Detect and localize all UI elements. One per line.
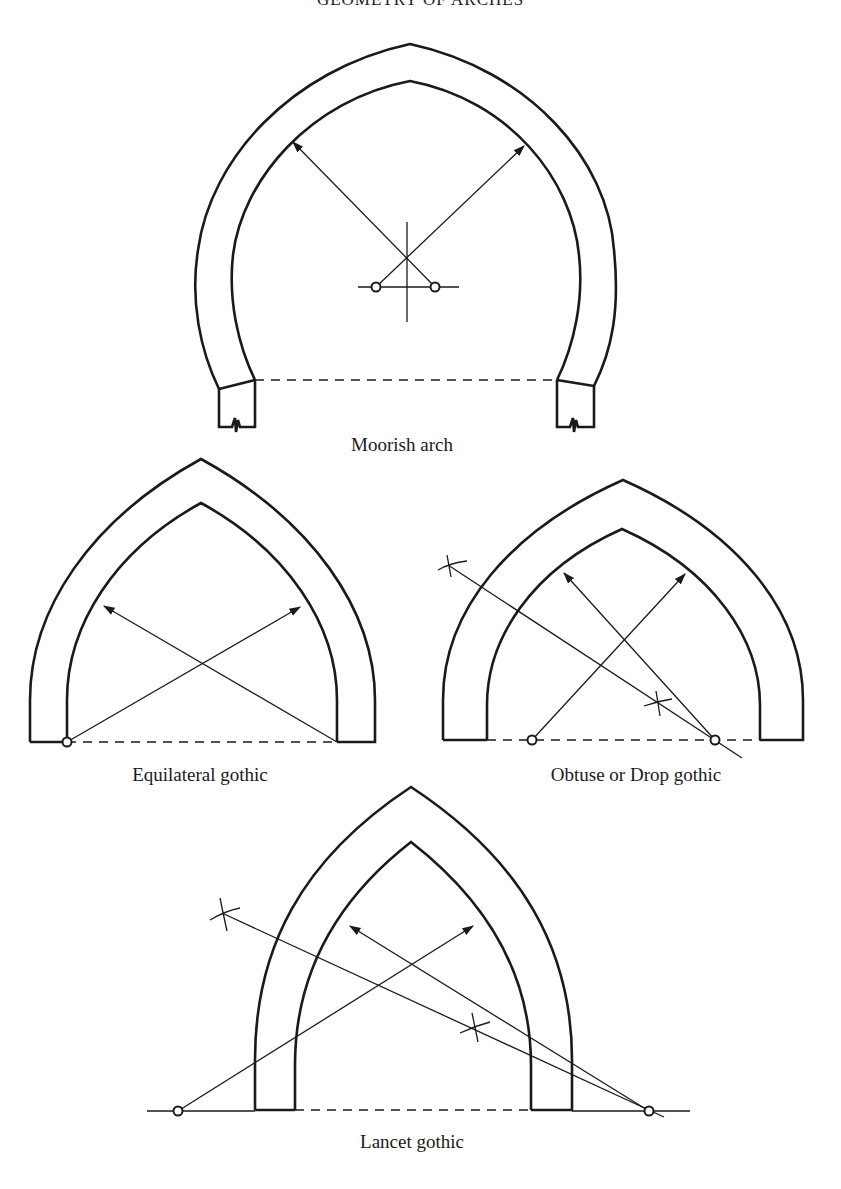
moorish-radius-right [376, 146, 524, 287]
moorish-radius-left [293, 142, 435, 287]
moorish-arch-figure [195, 44, 616, 432]
lancet-radius-left [350, 926, 649, 1111]
caption-lancet-gothic: Lancet gothic [360, 1131, 464, 1153]
equilateral-inner-curve [67, 503, 337, 742]
obtuse-inner-curve [487, 529, 760, 740]
obtuse-center-right [711, 736, 720, 745]
lancet-outer-curve [255, 787, 572, 1110]
arches-diagram [0, 0, 841, 1189]
equilateral-radius-left [104, 606, 337, 742]
moorish-inner-curve [232, 81, 581, 380]
moorish-center-right [431, 283, 440, 292]
caption-obtuse-gothic: Obtuse or Drop gothic [551, 764, 721, 786]
moorish-right-springer [557, 380, 594, 386]
equilateral-radius-right [67, 607, 300, 742]
equilateral-outer-curve [30, 459, 375, 742]
obtuse-center-left [528, 736, 537, 745]
lancet-center-right [645, 1107, 654, 1116]
diagram-page: GEOMETRY OF ARCHES [0, 0, 841, 1189]
lancet-inner-curve [295, 842, 531, 1110]
moorish-outer-curve [195, 44, 616, 389]
lancet-gothic-figure [147, 787, 690, 1117]
lancet-radius-right [178, 926, 473, 1111]
lancet-center-left [174, 1107, 183, 1116]
lancet-arc-mark-lower [460, 1013, 490, 1042]
equilateral-gothic-figure [30, 459, 375, 747]
equilateral-center [63, 738, 72, 747]
obtuse-outer-curve [443, 480, 803, 740]
moorish-right-pier [557, 380, 594, 432]
obtuse-arc-mark-lower [644, 691, 672, 716]
caption-moorish-arch: Moorish arch [351, 434, 453, 456]
moorish-center-left [372, 283, 381, 292]
obtuse-arc-mark-upper [438, 555, 467, 577]
obtuse-radius-right [532, 574, 685, 740]
moorish-left-springer [219, 380, 255, 389]
obtuse-gothic-figure [438, 480, 803, 758]
caption-equilateral-gothic: Equilateral gothic [132, 764, 268, 786]
